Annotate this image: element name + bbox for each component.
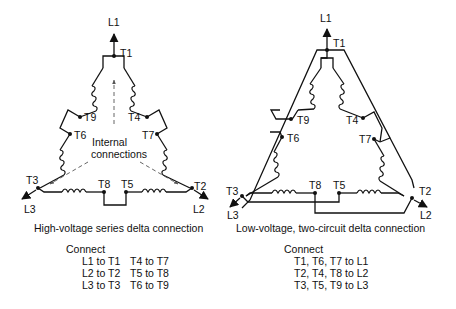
l2-lead	[414, 200, 427, 207]
label-l2: L2	[193, 203, 205, 215]
connection-item: L1 to T1	[82, 255, 130, 267]
coil-t5-t2	[142, 189, 166, 192]
bus-l1-right-to-t7	[327, 50, 390, 142]
left-connect-row: L3 to T3 T6 to T9	[66, 279, 178, 291]
coil-t1-t4	[130, 86, 135, 111]
coil-t3-t8	[62, 189, 86, 192]
coil-t6-t3	[274, 152, 279, 177]
right-connect-table: Connect T1, T6, T7 to L1 T2, T4, T8 to L…	[284, 243, 368, 291]
wire	[321, 58, 333, 68]
coil-t6-t3	[60, 150, 65, 175]
left-connect-table: Connect L1 to T1 T4 to T7 L2 to T2 T5 to…	[66, 243, 178, 291]
connection-item: L2 to T2	[82, 267, 130, 279]
wire	[38, 188, 62, 192]
wire	[333, 68, 344, 84]
label-t2: T2	[194, 180, 206, 192]
t1-dot	[112, 54, 116, 58]
label-t4: T4	[346, 114, 358, 126]
label-connections: connections	[91, 148, 147, 160]
label-t9: T9	[297, 114, 309, 126]
bus-l2-outer	[390, 138, 414, 188]
coil-t5-t2	[357, 190, 381, 193]
label-t1: T1	[120, 47, 132, 59]
coil-t3-t8	[272, 190, 296, 193]
label-t5: T5	[121, 178, 133, 190]
wire	[166, 188, 192, 192]
coil-t7-t2	[162, 150, 167, 175]
wire	[321, 50, 327, 68]
connection-item: T3, T5, T9 to L3	[284, 279, 368, 291]
wire	[246, 193, 272, 196]
l3-lead	[230, 198, 240, 207]
left-connect-title: Connect	[66, 243, 178, 255]
coil-t1-t9	[92, 86, 97, 111]
internal-connection-arrow-left	[50, 162, 88, 184]
connection-item: T1, T6, T7 to L1	[284, 255, 368, 267]
connection-item: T2, T4, T8 to L2	[284, 267, 368, 279]
wire	[92, 68, 103, 86]
connection-item: T5 to T8	[130, 267, 178, 279]
high-voltage-series-delta-diagram: L1 T1 T9 T4 T6 T7 Internal connections T…	[22, 16, 208, 215]
bus-t8-l2	[315, 193, 412, 213]
label-t3: T3	[226, 185, 238, 197]
label-t6: T6	[74, 129, 86, 141]
label-l3: L3	[227, 209, 239, 221]
label-l1: L1	[320, 12, 332, 24]
wire	[124, 68, 135, 86]
label-internal: Internal	[92, 136, 127, 148]
connection-item: T4 to T7	[130, 255, 178, 267]
coil-t7-t2	[379, 156, 384, 181]
label-t9: T9	[84, 111, 96, 123]
wire	[157, 134, 167, 150]
right-caption: Low-voltage, two-circuit delta connectio…	[236, 222, 425, 234]
label-l1: L1	[108, 16, 120, 28]
coil-t1-t4	[339, 84, 344, 109]
label-t5: T5	[333, 179, 345, 191]
internal-connection-arrow-right	[140, 162, 178, 184]
wire	[298, 109, 314, 110]
label-l2: L2	[420, 209, 432, 221]
left-connect-row: L2 to T2 T5 to T8	[66, 267, 178, 279]
l3-lead	[22, 190, 36, 199]
label-t7: T7	[142, 129, 154, 141]
label-t2: T2	[419, 185, 431, 197]
label-t8: T8	[309, 179, 321, 191]
t5-t8-jumper	[104, 192, 126, 205]
label-t8: T8	[98, 178, 110, 190]
label-l3: L3	[24, 203, 36, 215]
low-voltage-two-circuit-delta-diagram: L1 T1 T9 T4 T6 T7 T3 T2 T8 T5 L3 L2	[226, 12, 432, 221]
wire	[310, 68, 321, 84]
wire	[40, 175, 64, 188]
label-t6: T6	[287, 132, 299, 144]
left-connect-row: L1 to T1 T4 to T7	[66, 255, 178, 267]
left-caption: High-voltage series delta connection	[34, 222, 203, 234]
label-t7: T7	[359, 133, 371, 145]
label-t1: T1	[333, 37, 345, 49]
connection-item: T6 to T9	[130, 279, 178, 291]
coil-t1-t9	[310, 84, 315, 109]
connection-item: L3 to T3	[82, 279, 130, 291]
bus-t5-l3	[242, 193, 339, 202]
right-connect-title: Connect	[284, 243, 368, 255]
label-t3: T3	[26, 174, 38, 186]
wire	[163, 175, 190, 188]
wire	[60, 134, 70, 150]
label-t4: T4	[128, 111, 140, 123]
